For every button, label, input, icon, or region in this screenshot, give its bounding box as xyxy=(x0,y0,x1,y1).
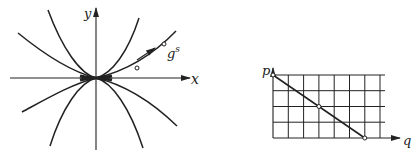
p-axis-label: p xyxy=(262,63,271,78)
trajectory-curve xyxy=(22,78,177,126)
figure-canvas: x y gs p q xyxy=(0,0,418,168)
grid-plot xyxy=(271,68,400,140)
flow-label: gs xyxy=(167,44,180,61)
marked-point xyxy=(271,73,275,77)
q-axis-label: q xyxy=(403,133,411,148)
phase-portrait xyxy=(10,8,190,150)
grid-lines xyxy=(273,75,385,138)
y-axis-label: y xyxy=(83,6,92,21)
saddle-node-center xyxy=(80,76,112,80)
trajectory-curve xyxy=(18,31,176,78)
flow-arrow-icon xyxy=(137,48,155,60)
marked-point xyxy=(363,136,367,140)
x-axis-label: x xyxy=(191,71,199,87)
trajectory-point xyxy=(135,66,139,70)
trajectory-point xyxy=(162,42,166,46)
marked-point xyxy=(317,105,321,109)
